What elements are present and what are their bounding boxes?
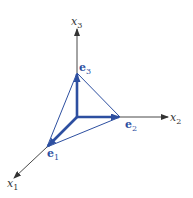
axis-label-x2-sub: 2 <box>176 117 181 126</box>
vector-label-e3: e3 <box>79 62 91 76</box>
axis-label-x1: x1 <box>7 178 18 192</box>
axis-label-x2: x2 <box>170 112 181 126</box>
vector-label-e3-base: e <box>79 61 86 74</box>
vector-label-e1-base: e <box>47 147 54 160</box>
basis-vectors-diagram: x3 x2 x1 e3 e2 e1 <box>0 0 193 198</box>
vector-e1 <box>48 117 77 146</box>
vector-label-e2: e2 <box>125 119 137 133</box>
vector-label-e1-sub: 1 <box>54 153 59 162</box>
vector-label-e2-sub: 2 <box>132 124 137 133</box>
axis-label-x3-sub: 3 <box>77 21 82 30</box>
vector-label-e3-sub: 3 <box>86 67 91 76</box>
axis-label-x1-sub: 1 <box>13 183 18 192</box>
axis-x1 <box>14 147 47 178</box>
diagram-graphics <box>0 0 193 198</box>
axis-label-x3: x3 <box>71 16 82 30</box>
vector-label-e2-base: e <box>125 118 132 131</box>
vector-label-e1: e1 <box>47 148 59 162</box>
